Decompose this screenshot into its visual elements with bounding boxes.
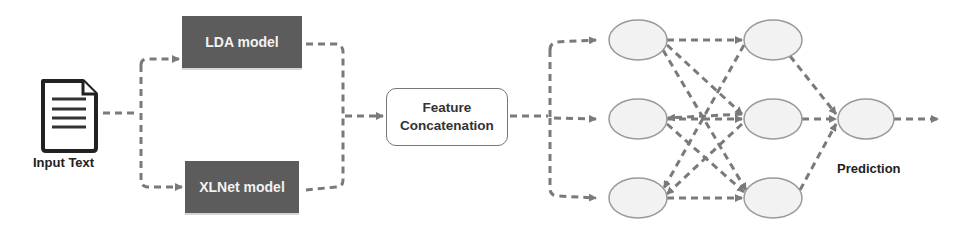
arrow-to-n1	[550, 40, 596, 50]
arrow-to-xlnet	[141, 65, 182, 187]
prediction-label: Prediction	[837, 161, 901, 176]
node-input-3	[609, 178, 667, 218]
input-text-label: Input Text	[33, 155, 94, 170]
concat-label-line2: Concatenation	[400, 117, 494, 135]
node-input-1	[609, 20, 667, 60]
arrow-to-lda	[141, 59, 179, 65]
node-hidden-1	[744, 20, 802, 60]
arrow-h1-out	[790, 56, 836, 114]
node-hidden-3	[744, 178, 802, 218]
node-output	[838, 99, 894, 139]
node-input-2	[609, 99, 667, 139]
arrow-to-n3	[550, 118, 596, 198]
lda-model-label: LDA model	[205, 34, 278, 50]
concat-label-line1: Feature	[423, 99, 472, 117]
xlnet-model-label: XLNet model	[199, 179, 285, 195]
xlnet-model-box: XLNet model	[185, 161, 299, 213]
arrow-h3-out	[800, 124, 836, 190]
document-icon	[43, 81, 96, 151]
node-hidden-2	[744, 99, 802, 139]
arrow-to-n2	[550, 50, 596, 119]
arrow-merge	[306, 44, 343, 190]
dense-connections	[663, 40, 746, 198]
lda-model-box: LDA model	[182, 16, 302, 68]
feature-concatenation-box: Feature Concatenation	[386, 88, 508, 146]
